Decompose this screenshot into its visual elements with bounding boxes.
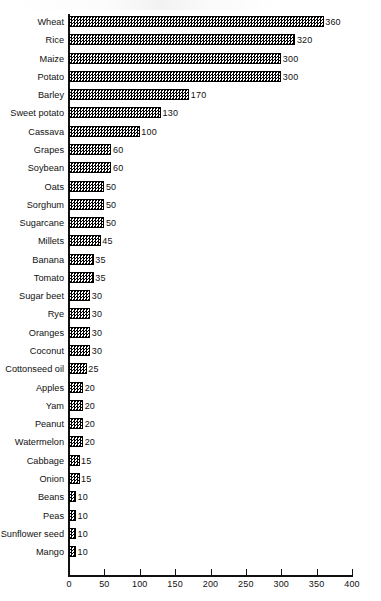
bar — [69, 217, 104, 228]
bar — [69, 308, 90, 319]
x-tick-label: 100 — [120, 579, 160, 589]
plot-area: 050100150200250300350400 Wheat360Rice320… — [0, 0, 381, 601]
bar — [69, 418, 83, 429]
bar — [69, 126, 140, 137]
x-tick-mark — [246, 569, 247, 576]
bar — [69, 327, 90, 338]
value-label: 100 — [141, 126, 157, 138]
x-tick-label: 200 — [191, 579, 231, 589]
x-tick-mark — [352, 569, 353, 576]
value-label: 130 — [162, 107, 178, 119]
category-label: Potato — [0, 71, 64, 83]
value-label: 45 — [102, 235, 112, 247]
x-tick-label: 250 — [226, 579, 266, 589]
x-tick-mark — [140, 569, 141, 576]
value-label: 320 — [297, 34, 313, 46]
category-label: Millets — [0, 235, 64, 247]
category-label: Watermelon — [0, 436, 64, 448]
bar — [69, 546, 76, 557]
bar — [69, 16, 324, 27]
bar — [69, 162, 111, 173]
category-label: Sweet potato — [0, 107, 64, 119]
category-label: Banana — [0, 254, 64, 266]
value-label: 300 — [283, 71, 299, 83]
value-label: 20 — [85, 382, 95, 394]
value-label: 60 — [113, 162, 123, 174]
value-label: 50 — [106, 181, 116, 193]
value-label: 30 — [92, 345, 102, 357]
category-label: Cassava — [0, 126, 64, 138]
bar — [69, 254, 94, 265]
category-label: Sugarcane — [0, 217, 64, 229]
bar — [69, 436, 83, 447]
value-label: 10 — [78, 510, 88, 522]
bar — [69, 89, 189, 100]
bar — [69, 71, 281, 82]
category-label: Grapes — [0, 144, 64, 156]
value-label: 10 — [78, 528, 88, 540]
value-label: 30 — [92, 327, 102, 339]
bar — [69, 34, 295, 45]
category-label: Apples — [0, 382, 64, 394]
value-label: 15 — [81, 455, 91, 467]
x-tick-label: 300 — [261, 579, 301, 589]
category-label: Sorghum — [0, 199, 64, 211]
x-tick-mark — [104, 569, 105, 576]
x-tick-mark — [317, 569, 318, 576]
category-label: Rye — [0, 308, 64, 320]
value-label: 15 — [81, 473, 91, 485]
category-label: Sugar beet — [0, 290, 64, 302]
category-label: Maize — [0, 53, 64, 65]
category-label: Mango — [0, 546, 64, 558]
bar — [69, 345, 90, 356]
category-label: Peas — [0, 510, 64, 522]
value-label: 170 — [191, 89, 207, 101]
bar — [69, 235, 101, 246]
x-tick-label: 400 — [332, 579, 372, 589]
value-label: 30 — [92, 308, 102, 320]
x-tick-label: 0 — [49, 579, 89, 589]
category-label: Sunflower seed — [0, 528, 64, 540]
bar — [69, 199, 104, 210]
bar — [69, 363, 87, 374]
bar — [69, 510, 76, 521]
category-label: Oranges — [0, 327, 64, 339]
value-label: 20 — [85, 436, 95, 448]
bar — [69, 455, 80, 466]
x-tick-mark — [281, 569, 282, 576]
bar — [69, 107, 161, 118]
category-label: Cabbage — [0, 455, 64, 467]
value-label: 300 — [283, 53, 299, 65]
category-label: Barley — [0, 89, 64, 101]
value-label: 10 — [78, 491, 88, 503]
category-label: Wheat — [0, 16, 64, 28]
x-tick-label: 50 — [84, 579, 124, 589]
bar — [69, 272, 94, 283]
category-label: Peanut — [0, 418, 64, 430]
bar — [69, 491, 76, 502]
bar — [69, 528, 76, 539]
bar — [69, 290, 90, 301]
bar — [69, 382, 83, 393]
x-tick-mark — [175, 569, 176, 576]
x-tick-label: 350 — [297, 579, 337, 589]
category-label: Soybean — [0, 162, 64, 174]
value-label: 60 — [113, 144, 123, 156]
category-label: Tomato — [0, 272, 64, 284]
value-label: 30 — [92, 290, 102, 302]
bar — [69, 473, 80, 484]
bar — [69, 53, 281, 64]
value-label: 35 — [95, 272, 105, 284]
value-label: 25 — [88, 363, 98, 375]
x-tick-mark — [211, 569, 212, 576]
category-label: Beans — [0, 491, 64, 503]
category-label: Onion — [0, 473, 64, 485]
value-label: 50 — [106, 199, 116, 211]
value-label: 50 — [106, 217, 116, 229]
value-label: 10 — [78, 546, 88, 558]
category-label: Yam — [0, 400, 64, 412]
category-label: Coconut — [0, 345, 64, 357]
value-label: 20 — [85, 400, 95, 412]
value-label: 35 — [95, 254, 105, 266]
x-tick-mark — [69, 569, 70, 576]
